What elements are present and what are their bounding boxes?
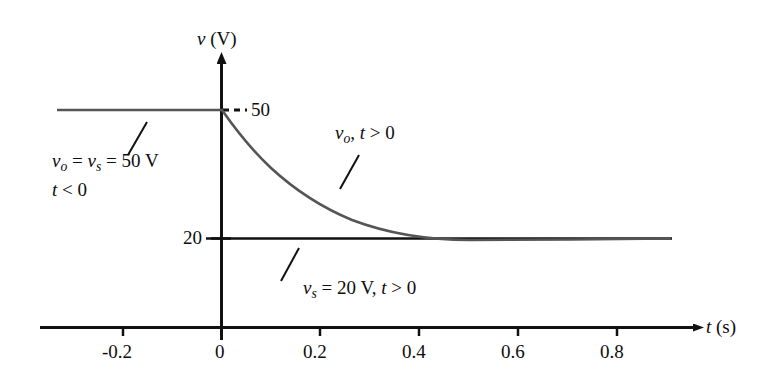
annotation-initial-condition-line2: t < 0 [52, 179, 159, 200]
annotation-vs-source: vs = 20 V, t > 0 [303, 277, 416, 301]
x-tick-label-neg02: -0.2 [102, 341, 132, 362]
leader-line-curve [340, 155, 359, 189]
x-tick-label-06: 0.6 [501, 341, 525, 362]
y-value-label-20: 20 [183, 227, 202, 248]
y-axis-label: v (V) [197, 28, 237, 49]
vo-decay-curve [222, 110, 670, 240]
x-axis-label: t (s) [706, 316, 736, 337]
x-tick-label-08: 0.8 [600, 341, 624, 362]
x-axis-label-unit: (s) [716, 316, 736, 337]
x-tick-label-0: 0 [215, 341, 225, 362]
annotation-initial-condition: vo = vs = 50 V t < 0 [52, 150, 159, 200]
figure-canvas: v (V) t (s) 50 20 -0.2 0 0.2 0.4 0.6 0.8… [0, 0, 767, 390]
leader-line-source [281, 248, 299, 281]
x-tick-label-02: 0.2 [303, 341, 327, 362]
annotation-initial-condition-line1: vo = vs = 50 V [52, 150, 159, 174]
y-value-label-50: 50 [251, 99, 270, 120]
y-axis-label-unit: (V) [210, 28, 236, 49]
x-tick-label-04: 0.4 [402, 341, 426, 362]
annotation-vo-curve: vo, t > 0 [335, 122, 395, 146]
